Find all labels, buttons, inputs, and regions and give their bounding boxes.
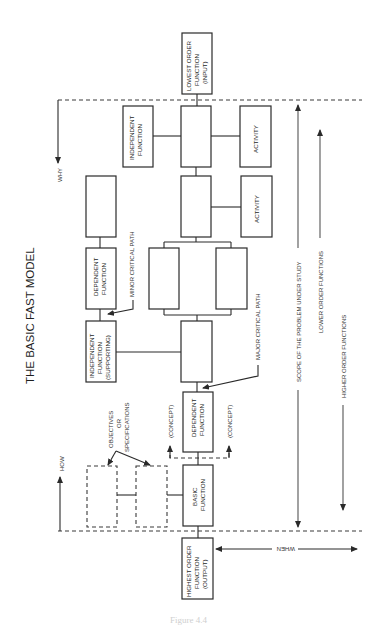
- svg-text:ACTIVITY: ACTIVITY: [253, 195, 260, 223]
- activity-box-1: ACTIVITY: [240, 106, 271, 167]
- major-critical-path-label: MAJOR CRITICAL PATH: [255, 293, 261, 360]
- svg-text:DEPENDENT: DEPENDENT: [190, 399, 197, 437]
- svg-text:OBJECTIVES: OBJECTIVES: [108, 411, 114, 448]
- scope-label: SCOPE OF THE PROBLEM UNDER STUDY: [296, 261, 302, 382]
- lower-order-functions-indicator: LOWER ORDER FUNCTIONS: [318, 130, 324, 333]
- svg-text:FUNCTION: FUNCTION: [199, 479, 206, 511]
- objective-box-left: [87, 466, 117, 527]
- independent-function-box: INDEPENDENT FUNCTION: [123, 106, 153, 167]
- lowest-order-function-box: LOWEST ORDER FUNCTION (INPUT): [182, 33, 212, 94]
- higher-order-label: HIGHER ORDER FUNCTIONS: [341, 315, 347, 398]
- higher-order-functions-indicator: HIGHER ORDER FUNCTIONS: [341, 315, 347, 510]
- svg-text:SPECIFICATIONS: SPECIFICATIONS: [124, 402, 130, 452]
- svg-text:FUNCTION: FUNCTION: [193, 54, 200, 86]
- svg-text:ACTIVITY: ACTIVITY: [252, 125, 259, 153]
- svg-text:FUNCTION: FUNCTION: [100, 263, 107, 295]
- function-box-major-center: [181, 321, 212, 382]
- svg-text:INDEPENDENT: INDEPENDENT: [88, 333, 95, 378]
- concept-label-left: (CONCEPT): [168, 405, 174, 438]
- function-box-second-center: [181, 176, 211, 237]
- diagram-title: THE BASIC FAST MODEL: [24, 247, 36, 384]
- basic-function-box: BASIC FUNCTION: [183, 465, 213, 526]
- objective-box-right: [136, 466, 167, 527]
- svg-text:FUNCTION: FUNCTION: [198, 404, 205, 436]
- svg-text:DEPENDENT: DEPENDENT: [92, 258, 99, 296]
- svg-text:LOWEST ORDER: LOWEST ORDER: [185, 40, 192, 91]
- parallel-function-box-left: [149, 248, 179, 309]
- objectives-pointer-right: [116, 451, 150, 465]
- svg-text:INDEPENDENT: INDEPENDENT: [128, 115, 135, 160]
- lower-order-label: LOWER ORDER FUNCTIONS: [318, 251, 324, 333]
- when-direction: WHEN: [216, 546, 357, 552]
- how-direction: HOW: [59, 456, 65, 531]
- why-label: WHY: [57, 168, 63, 182]
- svg-text:OR: OR: [116, 418, 122, 428]
- how-label: HOW: [59, 456, 65, 471]
- parallel-function-box-right: [216, 248, 247, 309]
- minor-critical-path-label: MINOR CRITICAL PATH: [129, 231, 135, 297]
- dependent-function-box: DEPENDENT FUNCTION: [183, 392, 213, 452]
- function-box-minor-top: [86, 176, 116, 237]
- svg-text:FUNCTION: FUNCTION: [96, 342, 103, 374]
- figure-caption: Figure 4.4: [170, 615, 207, 625]
- highest-order-function-box: HIGHEST ORDER FUNCTION (OUTPUT): [182, 538, 213, 599]
- objectives-label: OBJECTIVES OR SPECIFICATIONS: [108, 402, 130, 452]
- dependent-function-minor-box: DEPENDENT FUNCTION: [86, 248, 116, 309]
- svg-text:FUNCTION: FUNCTION: [136, 124, 143, 156]
- function-box-top-center: [181, 106, 211, 167]
- objectives-pointer-left: [108, 451, 116, 465]
- svg-text:(INPUT): (INPUT): [201, 61, 208, 84]
- svg-text:(OUTPUT): (OUTPUT): [201, 559, 208, 589]
- independent-function-supporting-box: INDEPENDENT FUNCTION (SUPPORTING): [86, 321, 116, 382]
- svg-text:FUNCTION: FUNCTION: [193, 557, 200, 589]
- activity-box-2: ACTIVITY: [241, 176, 272, 237]
- why-direction: WHY: [57, 100, 63, 182]
- concept-label-right: (CONCEPT): [227, 405, 233, 438]
- svg-text:(SUPPORTING): (SUPPORTING): [104, 335, 111, 380]
- fast-diagram: THE BASIC FAST MODEL WHY HOW LOWEST ORDE…: [0, 0, 381, 629]
- svg-text:BASIC: BASIC: [191, 487, 198, 506]
- svg-text:HIGHEST ORDER: HIGHEST ORDER: [185, 545, 192, 597]
- scope-of-problem-indicator: SCOPE OF THE PROBLEM UNDER STUDY: [296, 105, 302, 527]
- when-label: WHEN: [277, 546, 295, 552]
